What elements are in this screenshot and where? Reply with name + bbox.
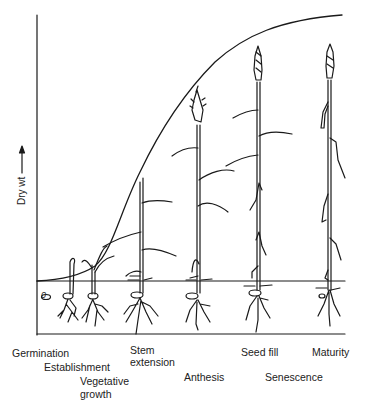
label-senescence: Senescence	[265, 372, 323, 383]
seed-fill-plant	[226, 46, 292, 332]
label-germination: Germination	[12, 348, 69, 359]
y-axis-label: Dry wt	[16, 177, 27, 205]
label-vegetative: Vegetative	[80, 376, 129, 387]
label-anthesis: Anthesis	[184, 372, 224, 383]
arrow-head-icon	[20, 146, 25, 153]
label-maturity: Maturity	[312, 347, 349, 358]
establishment-plant	[58, 258, 78, 322]
label-establishment: Establishment	[44, 362, 110, 373]
label-vegetative-2: growth	[80, 389, 112, 400]
vegetative-plant	[82, 246, 114, 326]
maturity-plant	[316, 44, 345, 326]
label-stem: Stem	[130, 345, 155, 356]
anthesis-plant	[172, 86, 234, 330]
label-seed-fill: Seed fill	[241, 347, 278, 358]
label-stem-2: extension	[130, 357, 175, 368]
soil-marker: 0	[41, 290, 46, 301]
